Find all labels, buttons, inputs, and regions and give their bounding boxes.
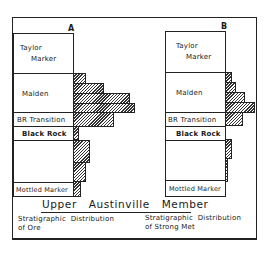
unit-unlabeled (166, 141, 225, 181)
bar-a-lower-1 (73, 140, 90, 163)
panel-a-label: A (68, 25, 74, 33)
unit-br-transition: BR Transition (14, 113, 73, 127)
unit-malden: Malden (14, 74, 73, 113)
bar-a-lower-2 (73, 162, 86, 182)
panel-b-caption-line1: Stratigraphic Distribution (145, 214, 241, 223)
unit-taylor-marker: Taylor Marker (14, 34, 73, 74)
unit-br-transition: BR Transition (166, 113, 225, 127)
panel-b-label: B (221, 23, 227, 31)
bar-a-mottled (73, 181, 81, 197)
unit-taylor-marker: Taylor Marker (166, 32, 225, 73)
bar-b-br-transition (225, 112, 243, 126)
figure-title: Upper Austinville Member (42, 198, 208, 210)
bar-a-black-rock (73, 126, 79, 140)
unit-malden: Malden (166, 73, 225, 113)
unit-mottled-marker: Mottled Marker (166, 181, 225, 197)
unit-black-rock: Black Rock (14, 127, 73, 141)
bar-a-br-transition (73, 112, 114, 127)
bar-b-lower-2 (225, 158, 228, 182)
unit-black-rock: Black Rock (166, 127, 225, 141)
bar-b-lower-1 (225, 139, 232, 159)
unit-mottled-marker: Mottled Marker (14, 183, 73, 197)
panel-a-caption-line2: of Ore (18, 224, 41, 233)
title-underline (41, 212, 191, 213)
panel-b-column: Taylor Marker Malden BR Transition Black… (165, 31, 226, 197)
unit-unlabeled (14, 141, 73, 183)
panel-a-caption-line1: Stratigraphic Distribution (18, 215, 114, 224)
panel-b-caption-line2: of Strong Met (145, 223, 195, 232)
panel-a-column: Taylor Marker Malden BR Transition Black… (13, 33, 74, 197)
